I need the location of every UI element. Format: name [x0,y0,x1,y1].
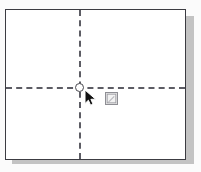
arrow-cursor-icon [84,89,100,107]
smart-tag-icon[interactable] [105,92,118,105]
canvas-root [0,0,201,172]
page-canvas[interactable] [6,10,185,159]
document-page[interactable] [5,9,186,160]
